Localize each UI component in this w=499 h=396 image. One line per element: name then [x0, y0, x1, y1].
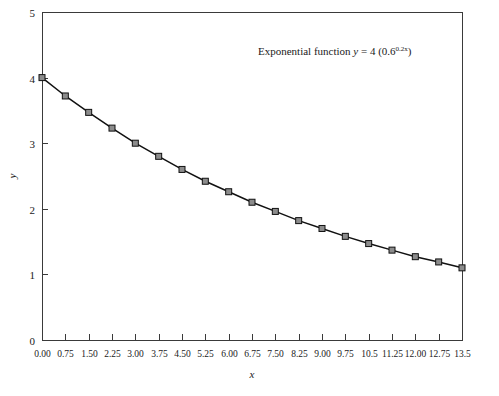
data-point-marker: [226, 189, 232, 195]
y-tick-label: 1: [30, 269, 36, 281]
x-tick-label: 12.75: [429, 349, 451, 359]
data-point-marker: [436, 259, 442, 265]
data-point-marker: [179, 166, 185, 172]
annotation-prefix: Exponential function: [258, 45, 353, 57]
x-tick-label: 6.75: [244, 349, 261, 359]
x-tick-label: 10.5: [361, 349, 378, 359]
data-point-marker: [62, 93, 68, 99]
data-point-marker: [459, 265, 465, 271]
data-point-marker: [39, 75, 45, 81]
y-tick-label: 4: [30, 73, 36, 85]
data-point-marker: [156, 153, 162, 159]
data-point-marker: [272, 208, 278, 214]
plot-canvas: 0.000.751.502.253.003.754.505.256.006.75…: [0, 0, 499, 396]
x-tick-label: 13.5: [454, 349, 471, 359]
x-tick-label: 1.50: [81, 349, 98, 359]
data-point-marker: [202, 178, 208, 184]
data-point-marker: [132, 140, 138, 146]
data-line: [42, 78, 462, 268]
data-point-marker: [249, 199, 255, 205]
data-point-marker: [296, 218, 302, 224]
x-tick-label: 0.75: [57, 349, 74, 359]
annotation-suffix: ): [408, 45, 412, 58]
chart-figure: 0.000.751.502.253.003.754.505.256.006.75…: [0, 0, 499, 396]
x-tick-label: 3.75: [151, 349, 168, 359]
y-tick-label: 2: [30, 204, 36, 216]
x-tick-label: 9.00: [314, 349, 331, 359]
x-tick-label: 7.50: [267, 349, 284, 359]
data-point-marker: [86, 109, 92, 115]
x-axis-title: x: [249, 368, 255, 380]
data-point-marker: [366, 241, 372, 247]
data-point-marker: [319, 225, 325, 231]
y-tick-label: 3: [30, 138, 36, 150]
data-point-marker: [389, 247, 395, 253]
x-tick-label: 2.25: [104, 349, 121, 359]
annotation-exponent: 0.2x: [396, 45, 409, 53]
annotation-equals: = 4 (0.6: [358, 45, 396, 58]
x-tick-label: 6.00: [221, 349, 238, 359]
data-point-marker: [412, 254, 418, 260]
x-tick-label: 5.25: [197, 349, 214, 359]
plot-frame: [43, 13, 463, 341]
x-tick-label: 11.25: [382, 349, 403, 359]
y-tick-label: 5: [30, 7, 36, 19]
x-tick-label: 0.00: [34, 349, 51, 359]
x-tick-label: 4.50: [174, 349, 191, 359]
data-point-marker: [109, 125, 115, 131]
x-tick-label: 3.00: [127, 349, 144, 359]
x-tick-label: 9.75: [337, 349, 354, 359]
y-tick-label: 0: [30, 335, 36, 347]
chart-annotation: Exponential function y = 4 (0.60.2x): [258, 45, 412, 58]
x-tick-label: 12.00: [405, 349, 427, 359]
data-point-marker: [342, 233, 348, 239]
y-axis-title: y: [6, 173, 18, 179]
x-tick-label: 8.25: [291, 349, 308, 359]
